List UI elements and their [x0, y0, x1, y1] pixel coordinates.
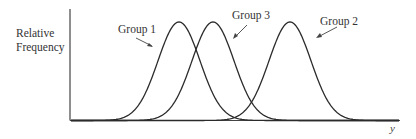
group1-label: Group 1 [118, 23, 156, 35]
group2-arrowhead [316, 33, 322, 38]
group2-label: Group 2 [320, 15, 358, 27]
group3-arrowhead [233, 33, 238, 39]
chart-container: Relative Frequency Group 1 Group 3 Group… [0, 0, 416, 139]
x-axis-label: y [390, 122, 395, 134]
group3-label: Group 3 [232, 9, 270, 21]
